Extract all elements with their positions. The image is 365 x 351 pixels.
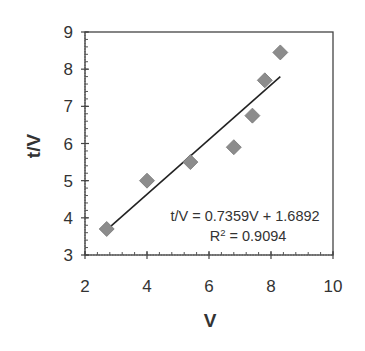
y-axis-title: t/V <box>23 134 44 159</box>
x-tick-label: 2 <box>80 277 89 296</box>
y-tick-labels: 3456789 <box>64 23 73 265</box>
x-tick-label: 4 <box>142 277 151 296</box>
x-tick-label: 6 <box>204 277 213 296</box>
x-tick-label: 8 <box>266 277 275 296</box>
data-point <box>273 45 288 60</box>
data-point <box>245 108 260 123</box>
trendline <box>107 77 281 230</box>
x-tick-labels: 246810 <box>80 277 342 296</box>
data-point <box>140 173 155 188</box>
y-tick-label: 7 <box>64 97 73 116</box>
data-point <box>183 155 198 170</box>
y-tick-label: 4 <box>64 209 73 228</box>
y-tick-label: 5 <box>64 172 73 191</box>
data-point <box>99 221 114 236</box>
data-point <box>226 140 241 155</box>
y-tick-label: 9 <box>64 23 73 42</box>
scatter-chart: 246810 3456789 t/V = 0.7359V + 1.6892 R2… <box>0 0 365 351</box>
y-tick-label: 6 <box>64 135 73 154</box>
y-tick-label: 3 <box>64 246 73 265</box>
r-squared-label: R2 = 0.9094 <box>210 227 287 244</box>
y-tick-label: 8 <box>64 60 73 79</box>
major-ticks <box>81 32 333 259</box>
equation-label: t/V = 0.7359V + 1.6892 <box>170 208 319 224</box>
x-tick-label: 10 <box>324 277 343 296</box>
x-axis-title: V <box>204 310 217 331</box>
